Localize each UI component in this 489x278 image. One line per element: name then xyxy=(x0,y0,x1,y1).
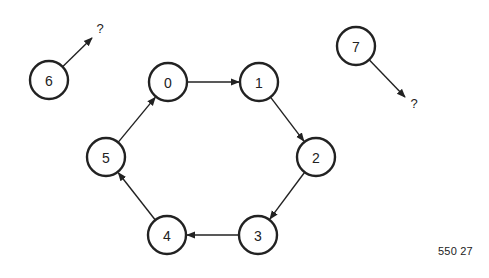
node-7: 7 xyxy=(337,27,375,65)
node-label: 2 xyxy=(312,150,320,166)
node-3: 3 xyxy=(239,216,277,254)
node-label: 7 xyxy=(352,39,360,55)
edge-2-to-3 xyxy=(270,172,305,219)
arrow-icon xyxy=(118,97,155,142)
node-2: 2 xyxy=(297,138,335,176)
figure-id-label: 550 27 xyxy=(438,245,473,257)
node-label: 5 xyxy=(102,150,110,166)
edge-5-to-0 xyxy=(118,97,155,142)
node-4: 4 xyxy=(148,216,186,254)
arrow-icon xyxy=(270,97,303,141)
unknown-target-label: ? xyxy=(96,21,103,36)
node-label: 1 xyxy=(255,75,263,91)
node-label: 6 xyxy=(45,73,53,89)
edge-6-to-unknown xyxy=(63,38,92,67)
node-1: 1 xyxy=(240,63,278,101)
nodes-layer: 01234567 xyxy=(30,27,375,254)
edge-7-to-unknown xyxy=(369,60,405,97)
node-0: 0 xyxy=(149,63,187,101)
arrow-icon xyxy=(369,60,405,97)
node-6: 6 xyxy=(30,61,68,99)
graph-diagram: ?? 01234567 xyxy=(0,0,489,278)
edge-1-to-2 xyxy=(270,97,303,141)
node-label: 4 xyxy=(163,228,171,244)
node-label: 3 xyxy=(254,228,262,244)
node-label: 0 xyxy=(164,75,172,91)
arrow-icon xyxy=(118,173,155,220)
arrow-icon xyxy=(63,38,92,67)
edge-4-to-5 xyxy=(118,173,155,220)
node-5: 5 xyxy=(87,138,125,176)
unknown-target-label: ? xyxy=(410,96,417,111)
arrow-icon xyxy=(270,172,305,219)
